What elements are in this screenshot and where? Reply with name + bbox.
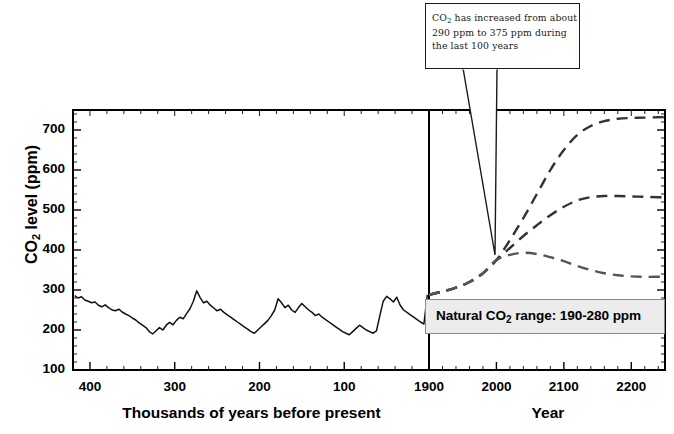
x-tick-label: 2200 [606, 379, 656, 394]
y-tick-label: 700 [25, 121, 65, 136]
y-axis-title-sub: 2 [30, 234, 42, 240]
x-tick-label: 400 [65, 379, 115, 394]
x-tick-label: 1900 [404, 379, 454, 394]
range-text-pre: Natural CO [436, 308, 506, 323]
callout-text-post: has increased from about 290 ppm to 375 … [432, 12, 577, 51]
x-tick-label: 2000 [471, 379, 521, 394]
x-axis-title-right: Year [430, 404, 666, 422]
y-tick-label: 600 [25, 161, 65, 176]
natural-range-annotation-box: Natural CO2 range: 190-280 ppm [425, 299, 665, 334]
y-tick-label: 400 [25, 241, 65, 256]
y-axis-title-post: level (ppm) [23, 145, 40, 234]
x-tick-label: 200 [234, 379, 284, 394]
callout-text-pre: CO [432, 12, 447, 23]
y-tick-label: 500 [25, 201, 65, 216]
natural-range-annotation-text: Natural CO2 range: 190-280 ppm [426, 308, 641, 325]
callout-annotation-box: CO2 has increased from about 290 ppm to … [425, 3, 580, 69]
y-tick-label: 100 [25, 361, 65, 376]
y-tick-label: 300 [25, 281, 65, 296]
y-tick-label: 200 [25, 321, 65, 336]
range-text-post: range: 190-280 ppm [511, 308, 641, 323]
x-axis-title-left: Thousands of years before present [73, 404, 430, 422]
callout-annotation-text: CO2 has increased from about 290 ppm to … [432, 12, 578, 52]
x-tick-label: 100 [319, 379, 369, 394]
chart-figure: CO2 level (ppm) 100200300400500600700 40… [0, 0, 674, 434]
x-tick-label: 2100 [539, 379, 589, 394]
x-tick-label: 300 [150, 379, 200, 394]
